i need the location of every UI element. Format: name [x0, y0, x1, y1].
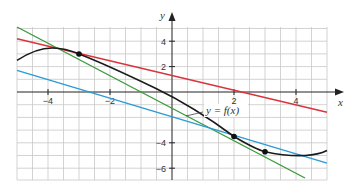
y-tick-label: −6 — [156, 164, 166, 174]
y-tick-label: −4 — [156, 138, 166, 148]
y-tick-label: 2 — [161, 62, 166, 72]
curve-label: y = f(x) — [205, 104, 239, 117]
y-tick-label: 4 — [161, 37, 166, 47]
function-graph: −4 −2 2 4 4 2 −4 −6 x y y = f(x) — [0, 0, 353, 193]
y-axis-label: y — [159, 9, 165, 21]
tangent-point — [262, 149, 268, 155]
x-axis-label: x — [337, 96, 343, 108]
tangent-point — [231, 134, 237, 140]
x-tick-label: −4 — [43, 96, 53, 106]
tangent-point — [76, 51, 82, 57]
x-axis-arrow-icon — [335, 89, 344, 96]
y-axis-arrow-icon — [169, 12, 176, 21]
